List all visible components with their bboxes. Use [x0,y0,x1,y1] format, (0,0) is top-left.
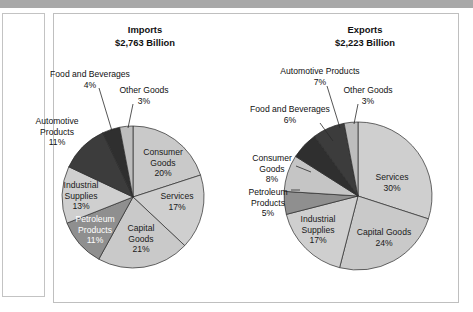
label-line: Supplies [65,191,98,201]
chart-subtitle: $2,223 Billion [335,37,395,48]
label-line: Capital [128,223,155,233]
label-line: 8% [266,174,279,184]
label-line: Consumer [252,153,292,163]
slice-label-petroleum-products: PetroleumProducts5% [248,187,287,218]
label-line: Automotive [36,116,79,126]
label-line: 20% [154,168,172,178]
label-line: Supplies [302,225,335,235]
label-line: 4% [84,80,97,90]
slice-label-food-and-beverages: Food and Beverages6% [250,104,330,125]
label-line: 17% [168,202,186,212]
label-line: Petroleum [248,187,287,197]
imports-pie-chart: Imports$2,763 BillionConsumerGoods20%Ser… [36,24,205,268]
label-line: Food and Beverages [250,104,330,114]
label-line: 11% [87,235,104,245]
label-line: 13% [72,201,90,211]
label-line: 24% [375,238,393,248]
chart-title: Imports [128,24,162,35]
label-line: Petroleum [75,214,114,224]
label-line: 3% [362,96,375,106]
label-line: 21% [132,244,150,254]
label-line: Products [40,127,74,137]
food-and-beverages-leader [99,88,112,131]
label-line: 3% [138,96,151,106]
chart-title: Exports [348,24,383,35]
other-goods-leader [128,104,133,128]
label-line: 17% [309,235,327,245]
label-line: Goods [259,164,284,174]
label-line: 6% [284,115,297,125]
label-line: Products [78,225,112,235]
slice-label-automotive-products: AutomotiveProducts11% [36,116,79,147]
label-line: Consumer [143,147,183,157]
label-line: Services [161,191,194,201]
label-line: 7% [314,77,327,87]
label-line: Industrial [301,214,336,224]
slice-label-food-and-beverages: Food and Beverages4% [50,69,130,90]
label-line: Industrial [64,180,99,190]
label-line: Services [376,172,409,182]
slice-label-automotive-products: Automotive Products7% [280,66,359,87]
label-line: Other Goods [119,85,168,95]
slice-label-other-goods: Other Goods3% [343,85,392,106]
slice-label-other-goods: Other Goods3% [119,85,168,106]
label-line: Automotive Products [280,66,359,76]
label-line: Products [251,198,285,208]
pie-charts-svg: Imports$2,763 BillionConsumerGoods20%Ser… [0,0,473,312]
label-line: Other Goods [343,85,392,95]
exports-pie-chart: Exports$2,223 BillionServices30%Capital … [248,24,432,270]
label-line: Capital Goods [357,227,411,237]
label-line: Food and Beverages [50,69,130,79]
label-line: 30% [383,183,401,193]
label-line: Goods [150,158,175,168]
pie-charts-container: Imports$2,763 BillionConsumerGoods20%Ser… [0,0,473,312]
chart-subtitle: $2,763 Billion [115,37,175,48]
label-line: 11% [49,137,66,147]
label-line: 5% [262,208,275,218]
other-goods-leader [354,104,358,124]
label-line: Goods [128,234,153,244]
